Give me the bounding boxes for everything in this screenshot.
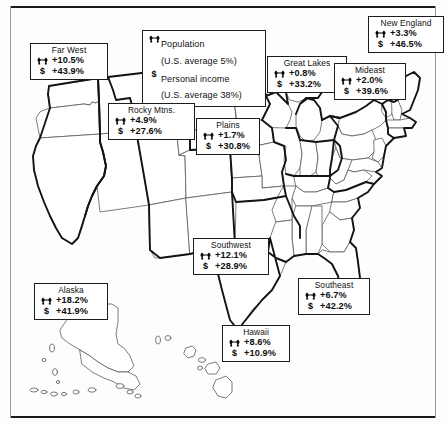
population-value: +4.9% — [127, 116, 157, 125]
callout-population-row: +1.7% — [202, 131, 254, 140]
dollar-sign-icon: $ — [273, 80, 286, 89]
income-value: +30.8% — [215, 142, 250, 151]
callout-hawaii[interactable]: Hawaii +8.6% $ +10.9% — [222, 325, 290, 362]
binoculars-icon — [40, 297, 53, 305]
income-value: +27.6% — [127, 127, 162, 136]
dollar-sign-icon: $ — [36, 67, 49, 76]
callout-income-row: $ +43.9% — [36, 67, 102, 76]
callout-rocky-mtns[interactable]: Rocky Mtns. +4.9% $ +27.6% — [108, 103, 195, 140]
binoculars-icon — [36, 57, 49, 65]
dollar-sign-icon: $ — [199, 262, 212, 271]
population-value: +8.6% — [241, 338, 271, 347]
binoculars-icon — [147, 34, 161, 43]
callout-title: Plains — [202, 121, 254, 129]
callout-title: Alaska — [40, 286, 102, 294]
callout-title: Southwest — [199, 241, 263, 249]
binoculars-icon — [114, 117, 127, 125]
callout-population-row: +3.3% — [374, 29, 438, 38]
income-value: +41.9% — [53, 307, 88, 316]
callout-southwest[interactable]: Southwest +12.1% $ +28.9% — [193, 238, 269, 275]
population-value: +6.7% — [317, 291, 347, 300]
binoculars-icon — [374, 30, 387, 38]
callout-population-row: +10.5% — [36, 56, 102, 65]
income-value: +33.2% — [286, 80, 321, 89]
income-value: +28.9% — [212, 262, 247, 271]
callout-income-row: $ +39.6% — [340, 87, 400, 96]
callout-income-row: $ +33.2% — [273, 80, 341, 89]
callout-income-row: $ +41.9% — [40, 307, 102, 316]
binoculars-icon — [202, 132, 215, 140]
legend-income-label: Personal income — [161, 74, 230, 84]
income-value: +42.2% — [317, 302, 352, 311]
population-value: +1.7% — [215, 131, 245, 140]
dollar-sign-icon: $ — [228, 349, 241, 358]
binoculars-icon — [340, 77, 353, 85]
callout-population-row: +0.8% — [273, 69, 341, 78]
callout-income-row: $ +28.9% — [199, 262, 263, 271]
callout-alaska[interactable]: Alaska +18.2% $ +41.9% — [34, 283, 108, 320]
callout-title: Rocky Mtns. — [114, 106, 189, 114]
map-figure: Population (U.S. average 5%) $ Personal … — [0, 0, 446, 425]
binoculars-icon — [273, 70, 286, 78]
callout-population-row: +4.9% — [114, 116, 189, 125]
dollar-sign-icon: $ — [340, 87, 353, 96]
income-value: +39.6% — [353, 87, 388, 96]
callout-population-row: +8.6% — [228, 338, 284, 347]
dollar-sign-icon: $ — [114, 127, 127, 136]
population-value: +0.8% — [286, 69, 316, 78]
map-legend: Population (U.S. average 5%) $ Personal … — [142, 30, 266, 107]
callout-title: New England — [374, 19, 438, 27]
binoculars-icon — [304, 292, 317, 300]
callout-income-row: $ +42.2% — [304, 302, 364, 311]
dollar-sign-icon: $ — [374, 40, 387, 49]
legend-population-label: Population — [161, 39, 205, 49]
dollar-sign-icon: $ — [202, 142, 215, 151]
callout-title: Great Lakes — [273, 59, 341, 67]
callout-title: Mideast — [340, 66, 400, 74]
population-value: +10.5% — [49, 56, 84, 65]
dollar-sign-icon: $ — [304, 302, 317, 311]
income-value: +10.9% — [241, 349, 276, 358]
binoculars-icon — [199, 252, 212, 260]
legend-population-sublabel: (U.S. average 5%) — [161, 56, 237, 66]
callout-southeast[interactable]: Southeast +6.7% $ +42.2% — [298, 278, 370, 315]
binoculars-icon — [228, 339, 241, 347]
callout-plains[interactable]: Plains +1.7% $ +30.8% — [196, 118, 260, 155]
dollar-sign-icon: $ — [40, 307, 53, 316]
callout-population-row: +18.2% — [40, 296, 102, 305]
callout-population-row: +12.1% — [199, 251, 263, 260]
population-value: +18.2% — [53, 296, 88, 305]
callout-mideast[interactable]: Mideast +2.0% $ +39.6% — [334, 63, 406, 100]
income-value: +46.5% — [387, 40, 422, 49]
callout-income-row: $ +46.5% — [374, 40, 438, 49]
callout-title: Hawaii — [228, 328, 284, 336]
callout-title: Far West — [36, 46, 102, 54]
population-value: +2.0% — [353, 76, 383, 85]
callout-new-england[interactable]: New England +3.3% $ +46.5% — [368, 16, 444, 53]
callout-population-row: +2.0% — [340, 76, 400, 85]
callout-income-row: $ +27.6% — [114, 127, 189, 136]
callout-population-row: +6.7% — [304, 291, 364, 300]
income-value: +43.9% — [49, 67, 84, 76]
legend-income-sublabel: (U.S. average 38%) — [161, 90, 242, 100]
callout-far-west[interactable]: Far West +10.5% $ +43.9% — [30, 43, 108, 80]
dollar-sign-icon: $ — [147, 69, 161, 79]
population-value: +3.3% — [387, 29, 417, 38]
legend-entry-population: Population (U.S. average 5%) — [147, 34, 259, 68]
callout-income-row: $ +30.8% — [202, 142, 254, 151]
population-value: +12.1% — [212, 251, 247, 260]
callout-income-row: $ +10.9% — [228, 349, 284, 358]
legend-entry-income: $ Personal income (U.S. average 38%) — [147, 69, 259, 103]
callout-title: Southeast — [304, 281, 364, 289]
